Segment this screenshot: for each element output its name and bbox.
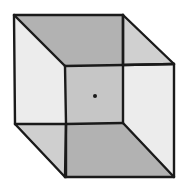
cube-edge bbox=[123, 64, 174, 65]
cube-edge bbox=[65, 65, 123, 66]
necker-cube-diagram: Necker cube bbox=[0, 0, 196, 186]
cube-edge bbox=[65, 66, 66, 124]
cube-drawing bbox=[0, 0, 196, 186]
fixation-dot bbox=[93, 94, 97, 98]
cube-edge bbox=[14, 15, 15, 124]
cube-edge bbox=[66, 123, 123, 124]
